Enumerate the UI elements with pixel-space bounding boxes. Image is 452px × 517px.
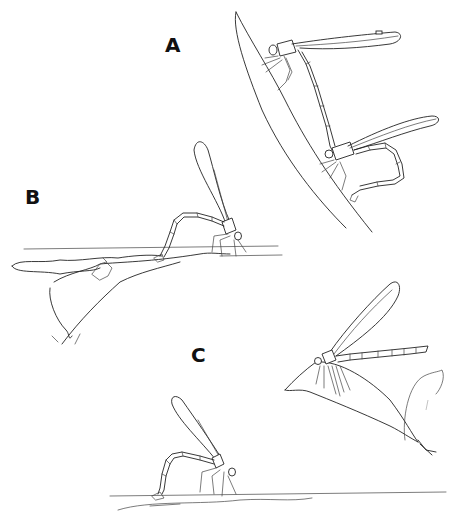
ovipositing-damselfly-c xyxy=(152,397,236,500)
panel-label-c: C xyxy=(191,345,206,365)
panel-label-b: B xyxy=(25,187,40,207)
panel-label-a: A xyxy=(165,35,180,55)
wing xyxy=(172,397,220,460)
submerged-damselfly xyxy=(92,258,112,280)
panel-a-drawing xyxy=(235,12,438,232)
perched-damselfly xyxy=(285,282,443,455)
panel-c-drawing xyxy=(110,282,446,510)
head xyxy=(235,232,242,240)
head xyxy=(229,468,236,476)
thorax xyxy=(277,40,296,56)
head xyxy=(269,45,277,55)
abdomen xyxy=(158,452,214,494)
wing xyxy=(292,32,401,49)
abdomen xyxy=(352,143,404,195)
pterostigma xyxy=(376,31,382,34)
ovipositing-damselfly-b xyxy=(154,142,246,262)
damselfly-figure: A B C xyxy=(0,0,452,517)
wing xyxy=(348,116,439,150)
illustration-canvas xyxy=(0,0,452,517)
wing xyxy=(194,142,230,224)
abdomen xyxy=(160,213,224,257)
head xyxy=(315,358,322,365)
thorax xyxy=(212,454,224,468)
floating-branch xyxy=(12,255,162,266)
panel-b-drawing xyxy=(12,142,282,344)
head xyxy=(325,150,333,158)
male-damselfly xyxy=(262,31,401,150)
water-line xyxy=(24,246,278,249)
female-damselfly xyxy=(320,116,439,202)
grass-stem-edge xyxy=(236,12,372,232)
